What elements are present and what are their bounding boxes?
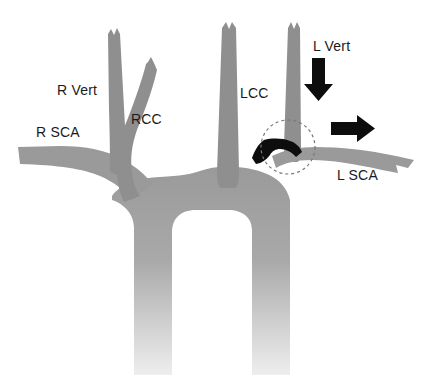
left-common-carotid-vessel [217,22,239,188]
down-arrow-icon [304,58,333,101]
right-arrow-icon [331,115,375,142]
aortic-arch-vessel [112,167,290,375]
aortic-arch-diagram: R Vert R SCA RCC LCC L Vert L SCA [0,0,429,375]
label-lcc: LCC [240,85,269,101]
vessel-anatomy-svg [0,0,429,375]
label-rcc: RCC [131,111,162,127]
label-l-sca: L SCA [337,167,378,183]
label-r-vert: R Vert [57,82,97,98]
label-l-vert: L Vert [313,38,350,54]
label-r-sca: R SCA [36,124,80,140]
